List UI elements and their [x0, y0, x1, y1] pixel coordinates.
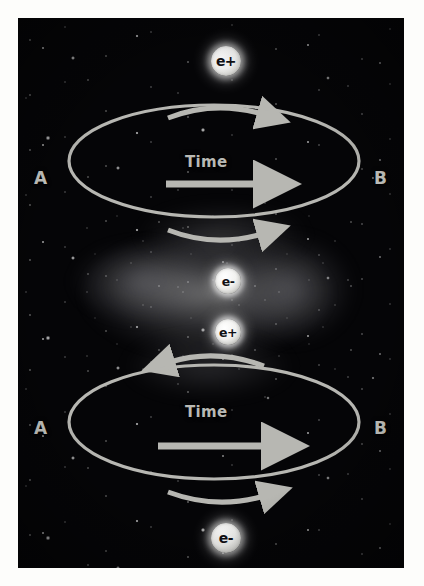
- top-loop-endpoint-b: B: [374, 168, 387, 188]
- bottom-loop-endpoint-b: B: [374, 418, 387, 438]
- bottom-loop-group: [56, 356, 376, 502]
- particle-badge-electron-bottom: e-: [211, 523, 241, 553]
- top-loop-upper-curved-arrow: [168, 108, 262, 118]
- diagram-overlay: [18, 18, 404, 568]
- figure-canvas: Time Time A B A B e+ e- e+ e-: [0, 0, 424, 586]
- top-loop-endpoint-a: A: [34, 168, 47, 188]
- top-loop-lower-curved-arrow: [168, 230, 262, 240]
- top-loop-time-caption: Time: [185, 153, 227, 171]
- particle-badge-positron-top: e+: [211, 46, 241, 76]
- particle-badge-electron-middle-upper: e-: [215, 268, 241, 294]
- bottom-loop-endpoint-a: A: [34, 418, 47, 438]
- space-background-plate: Time Time A B A B e+ e- e+ e-: [18, 18, 404, 568]
- top-loop-group: [56, 105, 376, 240]
- bottom-loop-time-caption: Time: [185, 403, 227, 421]
- particle-badge-positron-middle-lower: e+: [215, 319, 241, 345]
- bottom-loop-lower-curved-arrow: [168, 492, 264, 502]
